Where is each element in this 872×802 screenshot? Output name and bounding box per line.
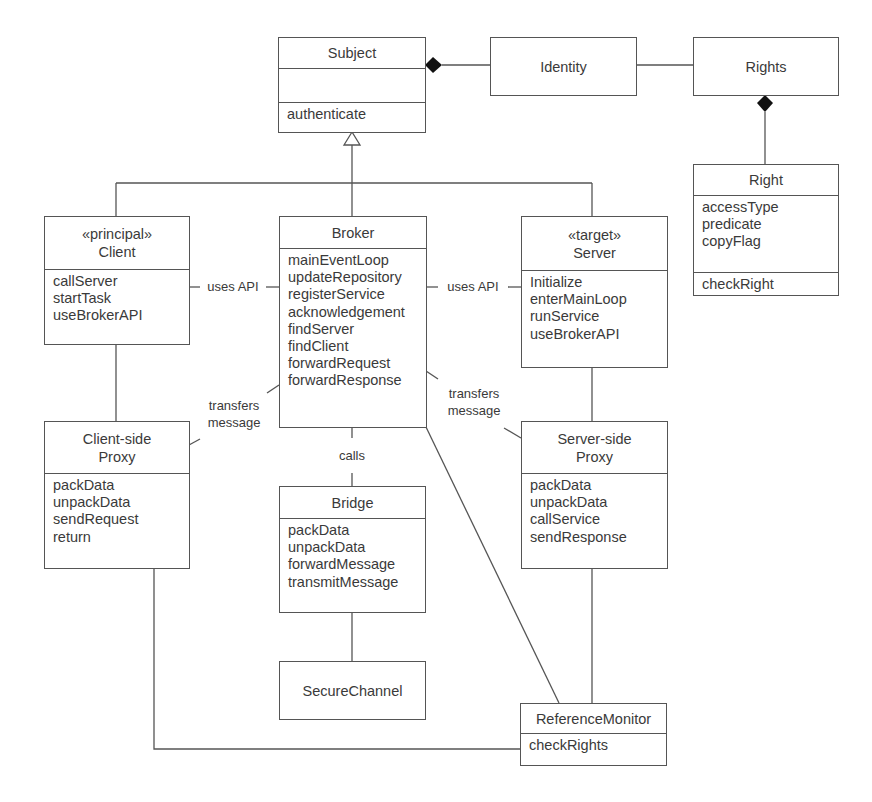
- class-name: Identity: [491, 38, 636, 95]
- class-name: ReferenceMonitor: [521, 704, 666, 734]
- operation: forwardMessage: [288, 556, 417, 573]
- class-name: Server-side Proxy: [522, 422, 667, 474]
- label-transfers-message-client: transfers message: [203, 397, 265, 431]
- operation-section: callServer startTask useBrokerAPI: [45, 270, 189, 325]
- class-name: Bridge: [280, 487, 425, 519]
- class-title: Proxy: [98, 448, 135, 466]
- operation: sendResponse: [530, 529, 659, 546]
- operation: forwardRequest: [288, 355, 418, 372]
- class-title: Rights: [745, 58, 786, 76]
- attribute: accessType: [702, 199, 830, 216]
- class-rights[interactable]: Rights: [693, 37, 839, 96]
- class-title: Client-side: [83, 430, 152, 448]
- operation: return: [53, 529, 181, 546]
- class-server[interactable]: «target» Server Initialize enterMainLoop…: [521, 216, 668, 368]
- class-bridge[interactable]: Bridge packData unpackData forwardMessag…: [279, 486, 426, 613]
- label-calls: calls: [332, 447, 372, 464]
- class-title: Subject: [328, 44, 376, 62]
- class-identity[interactable]: Identity: [490, 37, 637, 96]
- label-uses-api-client: uses API: [203, 278, 263, 295]
- composition-diamond-icon: [425, 57, 442, 73]
- operation: runService: [530, 308, 659, 325]
- operation: forwardResponse: [288, 372, 418, 389]
- class-title: Right: [749, 171, 783, 189]
- operation-section: packData unpackData forwardMessage trans…: [280, 519, 425, 591]
- class-title: Client: [98, 243, 135, 261]
- attribute-section: [279, 69, 425, 103]
- operation: Initialize: [530, 274, 659, 291]
- class-client[interactable]: «principal» Client callServer startTask …: [44, 216, 190, 345]
- operation: mainEventLoop: [288, 252, 418, 269]
- composition-diamond-icon: [757, 95, 773, 112]
- label-line: message: [443, 402, 505, 419]
- stereotype: «principal»: [82, 225, 152, 243]
- operation: updateRepository: [288, 269, 418, 286]
- label-line: transfers: [443, 385, 505, 402]
- attribute: copyFlag: [702, 233, 830, 250]
- class-name: Broker: [280, 217, 426, 249]
- operation: callService: [530, 511, 659, 528]
- class-title: Server: [573, 244, 616, 262]
- attribute-section: accessType predicate copyFlag: [694, 196, 838, 273]
- label-transfers-message-server: transfers message: [443, 385, 505, 419]
- operation-section: authenticate: [279, 103, 425, 123]
- operation: authenticate: [287, 106, 417, 123]
- class-title: Server-side: [557, 430, 631, 448]
- operation: useBrokerAPI: [53, 307, 181, 324]
- class-broker[interactable]: Broker mainEventLoop updateRepository re…: [279, 216, 427, 428]
- class-title: ReferenceMonitor: [536, 710, 651, 728]
- generalization-arrow-icon: [344, 132, 360, 145]
- operation-section: checkRight: [694, 273, 838, 293]
- operation: useBrokerAPI: [530, 326, 659, 343]
- operation: enterMainLoop: [530, 291, 659, 308]
- operation: sendRequest: [53, 511, 181, 528]
- operation: packData: [530, 477, 659, 494]
- connector-lines: [0, 0, 872, 802]
- operation: transmitMessage: [288, 574, 417, 591]
- operation: findClient: [288, 338, 418, 355]
- operation: checkRights: [529, 737, 658, 754]
- class-title: Identity: [540, 58, 587, 76]
- class-name: Subject: [279, 38, 425, 69]
- class-title: Proxy: [576, 448, 613, 466]
- operation: unpackData: [288, 539, 417, 556]
- operation: acknowledgement: [288, 304, 418, 321]
- class-server-side-proxy[interactable]: Server-side Proxy packData unpackData ca…: [521, 421, 668, 569]
- operation-section: packData unpackData callService sendResp…: [522, 474, 667, 546]
- operation: startTask: [53, 290, 181, 307]
- operation-section: mainEventLoop updateRepository registerS…: [280, 249, 426, 390]
- class-title: SecureChannel: [303, 682, 403, 700]
- operation: checkRight: [702, 276, 830, 293]
- operation: unpackData: [53, 494, 181, 511]
- operation: callServer: [53, 273, 181, 290]
- operation: packData: [53, 477, 181, 494]
- label-uses-api-server: uses API: [443, 278, 503, 295]
- class-name: «target» Server: [522, 217, 667, 271]
- class-reference-monitor[interactable]: ReferenceMonitor checkRights: [520, 703, 667, 766]
- attribute: predicate: [702, 216, 830, 233]
- class-right[interactable]: Right accessType predicate copyFlag chec…: [693, 164, 839, 296]
- operation-section: packData unpackData sendRequest return: [45, 474, 189, 546]
- operation-section: checkRights: [521, 734, 666, 754]
- class-name: Client-side Proxy: [45, 422, 189, 474]
- class-subject[interactable]: Subject authenticate: [278, 37, 426, 133]
- operation-section: Initialize enterMainLoop runService useB…: [522, 271, 667, 343]
- class-secure-channel[interactable]: SecureChannel: [279, 661, 426, 720]
- class-name: SecureChannel: [280, 662, 425, 719]
- operation: packData: [288, 522, 417, 539]
- operation: findServer: [288, 321, 418, 338]
- label-line: message: [203, 414, 265, 431]
- class-client-side-proxy[interactable]: Client-side Proxy packData unpackData se…: [44, 421, 190, 569]
- stereotype: «target»: [568, 226, 621, 244]
- class-name: «principal» Client: [45, 217, 189, 270]
- class-name: Right: [694, 165, 838, 196]
- label-line: transfers: [203, 397, 265, 414]
- class-name: Rights: [694, 38, 838, 95]
- class-title: Bridge: [332, 494, 374, 512]
- class-title: Broker: [332, 224, 375, 242]
- operation: unpackData: [530, 494, 659, 511]
- operation: registerService: [288, 286, 418, 303]
